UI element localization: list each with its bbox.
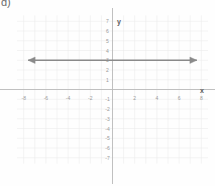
y-tick-label: 6 <box>106 29 109 34</box>
y-tick-label: -1 <box>105 97 109 102</box>
y-tick-label: 1 <box>106 77 109 82</box>
y-tick-label: 2 <box>106 68 109 73</box>
y-tick-label: 5 <box>106 38 109 43</box>
y-tick-label: -3 <box>105 116 109 121</box>
x-tick-label: -8 <box>21 95 25 100</box>
x-tick-label: -6 <box>44 95 48 100</box>
x-axis-label: x <box>200 87 204 94</box>
x-tick-label: 6 <box>178 95 181 100</box>
y-tick-label: -2 <box>105 107 109 112</box>
y-tick-label: -7 <box>105 155 109 160</box>
x-tick-label: -4 <box>66 95 70 100</box>
x-tick-label: 2 <box>133 95 136 100</box>
y-axis-label: y <box>117 18 121 25</box>
y-tick-label: 4 <box>106 48 109 53</box>
x-tick-label: 8 <box>200 95 203 100</box>
graph-canvas: d) -8-6-4-224687654321-1-2-3-4-5-6-7 x y <box>0 0 215 186</box>
y-tick-label: 7 <box>106 19 109 24</box>
y-tick-label: -6 <box>105 146 109 151</box>
y-tick-label: -5 <box>105 136 109 141</box>
y-tick-label: 3 <box>106 58 109 63</box>
x-tick-label: -2 <box>88 95 92 100</box>
y-tick-label: -4 <box>105 126 109 131</box>
x-tick-label: 4 <box>156 95 159 100</box>
